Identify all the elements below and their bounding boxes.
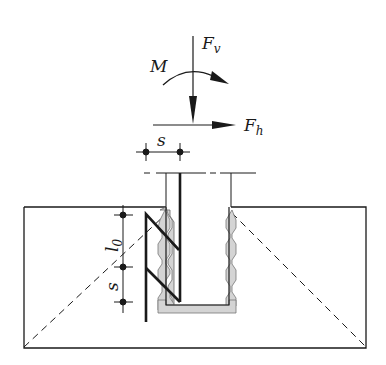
diagram-canvas: Fv M Fh s l0 s: [0, 0, 386, 365]
pocket-inner-line: [166, 207, 229, 305]
lap-length-label: l0: [102, 239, 125, 252]
horizontal-force-arrow: [153, 121, 236, 129]
moment-arrow: [163, 71, 229, 85]
moment-label: M: [149, 56, 168, 76]
vertical-force-label: Fv: [201, 33, 221, 56]
vertical-dimension-chain: [114, 205, 133, 313]
load-spread-lines: [24, 213, 366, 347]
spacing-side-label: s: [102, 282, 122, 291]
foundation-block: [24, 207, 366, 348]
column: [166, 173, 231, 207]
vertical-force-arrow: [189, 36, 197, 124]
spacing-top-label: s: [157, 130, 166, 150]
grout-joint-right: [226, 210, 236, 306]
horizontal-force-label: Fh: [243, 115, 264, 138]
